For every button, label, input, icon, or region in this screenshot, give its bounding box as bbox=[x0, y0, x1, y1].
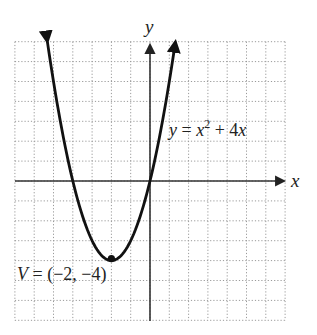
vertex-point bbox=[108, 255, 115, 262]
x-axis-label: x bbox=[290, 170, 300, 191]
vertex-label: V = (−2, −4) bbox=[17, 264, 106, 285]
y-axis-label: y bbox=[143, 16, 154, 37]
equation-label: y = x2 + 4x bbox=[167, 117, 246, 140]
coordinate-plane: y x y = x2 + 4x V = (−2, −4) bbox=[0, 0, 317, 335]
